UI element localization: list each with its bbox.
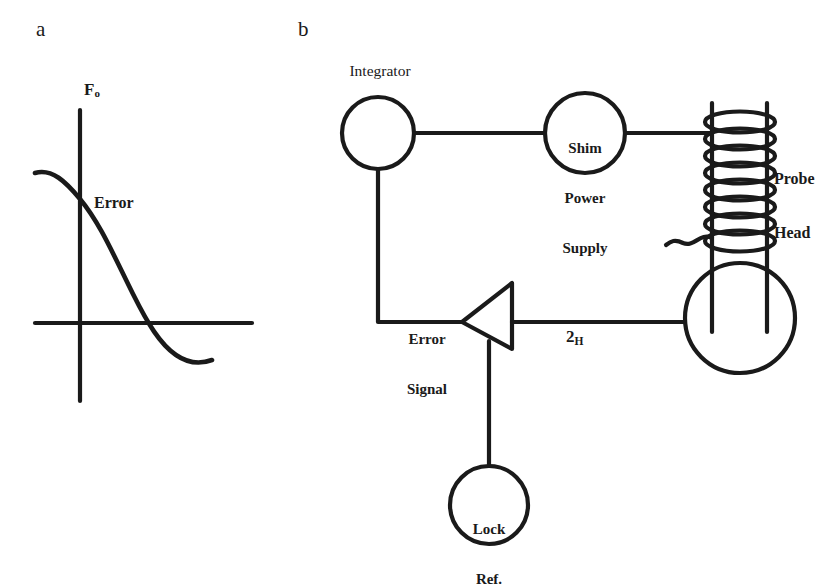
integrator-circle[interactable] [342,97,414,169]
magnet-sample-circle[interactable] [685,263,795,373]
lock-reference-line-2: Ref. [456,571,522,588]
axis-label-base: F [84,80,94,99]
deuterium-label: 2H [566,327,583,347]
error-signal-line-2: Signal [392,381,462,398]
lock-reference-line-1: Lock [456,521,522,538]
panel-a-axes [35,110,252,401]
shim-power-supply-line-2: Power [545,190,625,207]
deuterium-element-symbol: H [575,335,584,347]
shim-coil [705,112,775,252]
axis-label-subscript: o [94,87,100,99]
probe-head-label: Probe Head [774,134,838,277]
error-signal-line-1: Error [392,331,462,348]
error-curve-label: Error [94,194,134,212]
panel-a-letter: a [36,18,45,42]
shim-power-supply-label: Shim Power Supply [545,106,625,291]
probe-head-line-1: Probe [774,170,838,188]
error-signal-label: Error Signal [392,297,462,431]
deuterium-mass-number: 2 [566,327,575,346]
lock-reference-label: Lock Ref. [456,487,522,588]
shim-power-supply-line-1: Shim [545,140,625,157]
panel-b-letter: b [298,18,309,42]
amplifier-triangle[interactable] [462,283,512,349]
shim-power-supply-line-3: Supply [545,240,625,257]
probe-head-line-2: Head [774,224,838,242]
integrator-label: Integrator [334,62,426,79]
axis-label-fo: Fo [84,80,100,100]
